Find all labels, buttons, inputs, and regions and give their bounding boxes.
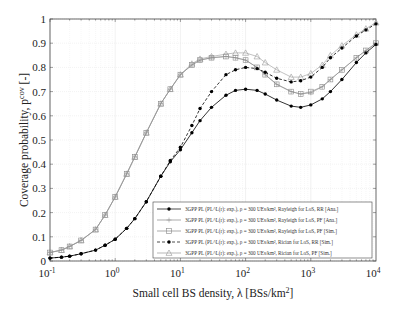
legend-label: 3GPP PL (PL^L(r): exp.), ρ = 300 UEs/km²… bbox=[185, 250, 332, 257]
y-tick-label: 0 bbox=[41, 255, 47, 267]
y-tick-label: 0.4 bbox=[32, 158, 46, 170]
x-tick-labels: 10-1100101102103104 bbox=[38, 266, 380, 279]
x-tick-label: 103 bbox=[300, 266, 315, 279]
coverage-probability-chart: 00.10.20.30.40.50.60.70.80.91 10-1100101… bbox=[0, 0, 401, 310]
y-tick-label: 0.9 bbox=[32, 37, 46, 49]
legend-label: 3GPP PL (PL^L(r): exp.), ρ = 300 UEs/km²… bbox=[185, 228, 337, 235]
x-axis-label: Small cell BS density, λ [BSs/km2] bbox=[133, 286, 294, 300]
y-tick-label: 0.6 bbox=[32, 110, 46, 122]
y-tick-label: 0.7 bbox=[32, 86, 46, 98]
y-tick-label: 0.2 bbox=[32, 207, 46, 219]
y-axis-label: Coverage probability, pcov [-] bbox=[17, 73, 31, 207]
x-tick-label: 10-1 bbox=[38, 266, 55, 279]
y-tick-label: 0.5 bbox=[32, 134, 46, 146]
y-tick-label: 1 bbox=[41, 13, 47, 25]
legend-label: 3GPP PL (PL^L(r): exp.), ρ = 300 UEs/km²… bbox=[185, 206, 339, 213]
legend-item: 3GPP PL (PL^L(r): exp.), ρ = 300 UEs/km²… bbox=[157, 228, 337, 235]
legend-label: 3GPP PL (PL^L(r): exp.), ρ = 300 UEs/km²… bbox=[185, 239, 333, 246]
x-tick-label: 104 bbox=[366, 266, 381, 279]
y-tick-label: 0.3 bbox=[32, 182, 46, 194]
legend-item: 3GPP PL (PL^L(r): exp.), ρ = 300 UEs/km²… bbox=[157, 206, 339, 213]
y-tick-label: 0.8 bbox=[32, 61, 46, 73]
y-tick-label: 0.1 bbox=[32, 231, 46, 243]
y-tick-labels: 00.10.20.30.40.50.60.70.80.91 bbox=[32, 13, 46, 267]
legend-item: 3GPP PL (PL^L(r): exp.), ρ = 300 UEs/km²… bbox=[157, 217, 337, 224]
x-tick-label: 102 bbox=[235, 266, 250, 279]
x-tick-label: 101 bbox=[170, 266, 185, 279]
x-tick-label: 100 bbox=[105, 266, 120, 279]
legend: 3GPP PL (PL^L(r): exp.), ρ = 300 UEs/km²… bbox=[153, 202, 372, 258]
legend-label: 3GPP PL (PL^L(r): exp.), ρ = 300 UEs/km²… bbox=[185, 217, 337, 224]
